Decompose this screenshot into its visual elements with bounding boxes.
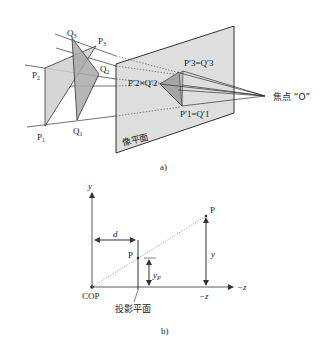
z-axis-label: −z [237,282,247,292]
caption-b: b) [161,326,169,336]
y-axis-label: y [87,181,92,191]
figure-b: y −z COP 投影平面 d P yP P y −z [82,181,247,336]
point-p-label: P [210,205,215,215]
z-tick-label: −z [199,291,209,301]
focal-point-label: 焦点 “O” [273,91,310,102]
label-q2: Q2 [100,64,110,75]
label-p3q3-projected: P′3=Q′3 [184,58,214,68]
distance-label: d [113,229,118,239]
label-p3: P3 [98,36,106,47]
y-label: y [210,249,215,259]
projection-plane-leader [134,290,138,302]
projected-point-label: P [128,250,133,260]
label-q1: Q1 [73,126,83,137]
label-p1q1-projected: P′1=Q′1 [180,109,210,119]
cop-label: COP [82,291,100,301]
label-p2q2-projected: P′2=Q′2 [128,78,158,88]
label-p2: P2 [32,70,40,81]
figure-canvas: P1 P2 P3 Q1 Q2 Q3 P′3=Q′3 P′2=Q′2 P′1=Q′… [0,0,327,340]
figure-a: P1 P2 P3 Q1 Q2 Q3 P′3=Q′3 P′2=Q′2 P′1=Q′… [25,26,310,172]
caption-a: a) [160,162,167,172]
projection-plane-label: 投影平面 [115,303,151,314]
label-p1: P1 [37,132,45,143]
point-p [205,215,208,218]
projected-point [137,257,140,260]
yp-label: yP [152,270,161,281]
label-q3: Q3 [67,28,77,39]
